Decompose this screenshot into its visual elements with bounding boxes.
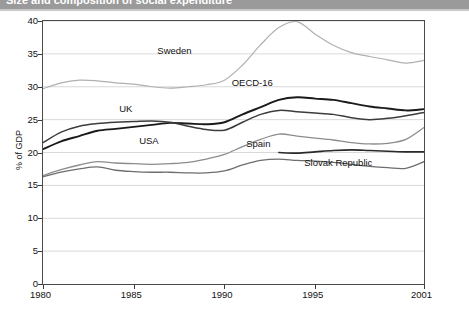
- y-tick-label: 0: [12, 279, 38, 289]
- y-tick-label: 25: [12, 115, 38, 125]
- series-label-spain: Spain: [246, 138, 270, 149]
- y-tick-label: 10: [12, 213, 38, 223]
- series-label-slovak-republic: Slovak Republic: [304, 157, 372, 168]
- chart-container: % of GDP 0510152025303540 19801985199019…: [0, 11, 469, 312]
- x-tick-label: 1980: [30, 289, 51, 300]
- y-tick-label: 40: [12, 16, 38, 26]
- x-tick-label: 1995: [302, 289, 323, 300]
- series-label-sweden: Sweden: [157, 45, 191, 56]
- series-line-uk: [43, 110, 424, 142]
- y-tick-mark: [38, 21, 42, 22]
- series-label-usa: USA: [139, 135, 159, 146]
- y-tick-label: 15: [12, 180, 38, 190]
- y-tick-mark: [38, 153, 42, 154]
- y-axis-ticks: 0510152025303540: [8, 11, 38, 312]
- series-label-uk: UK: [119, 103, 132, 114]
- plot-area: [42, 20, 425, 285]
- x-tick-label: 1985: [121, 289, 142, 300]
- x-tick-label: 2001: [411, 289, 432, 300]
- series-canvas: [43, 21, 424, 284]
- x-tick-label: 1990: [211, 289, 232, 300]
- y-tick-label: 35: [12, 49, 38, 59]
- page-title: Size and composition of social expenditu…: [6, 0, 232, 6]
- y-tick-mark: [38, 218, 42, 219]
- y-tick-mark: [38, 185, 42, 186]
- y-tick-label: 20: [12, 148, 38, 158]
- y-tick-mark: [38, 120, 42, 121]
- y-tick-label: 5: [12, 246, 38, 256]
- series-label-oecd-16: OECD-16: [232, 77, 273, 88]
- title-bar: Size and composition of social expenditu…: [0, 0, 469, 9]
- y-tick-mark: [38, 54, 42, 55]
- y-tick-mark: [38, 284, 42, 285]
- y-tick-mark: [38, 251, 42, 252]
- y-tick-mark: [38, 87, 42, 88]
- y-tick-label: 30: [12, 82, 38, 92]
